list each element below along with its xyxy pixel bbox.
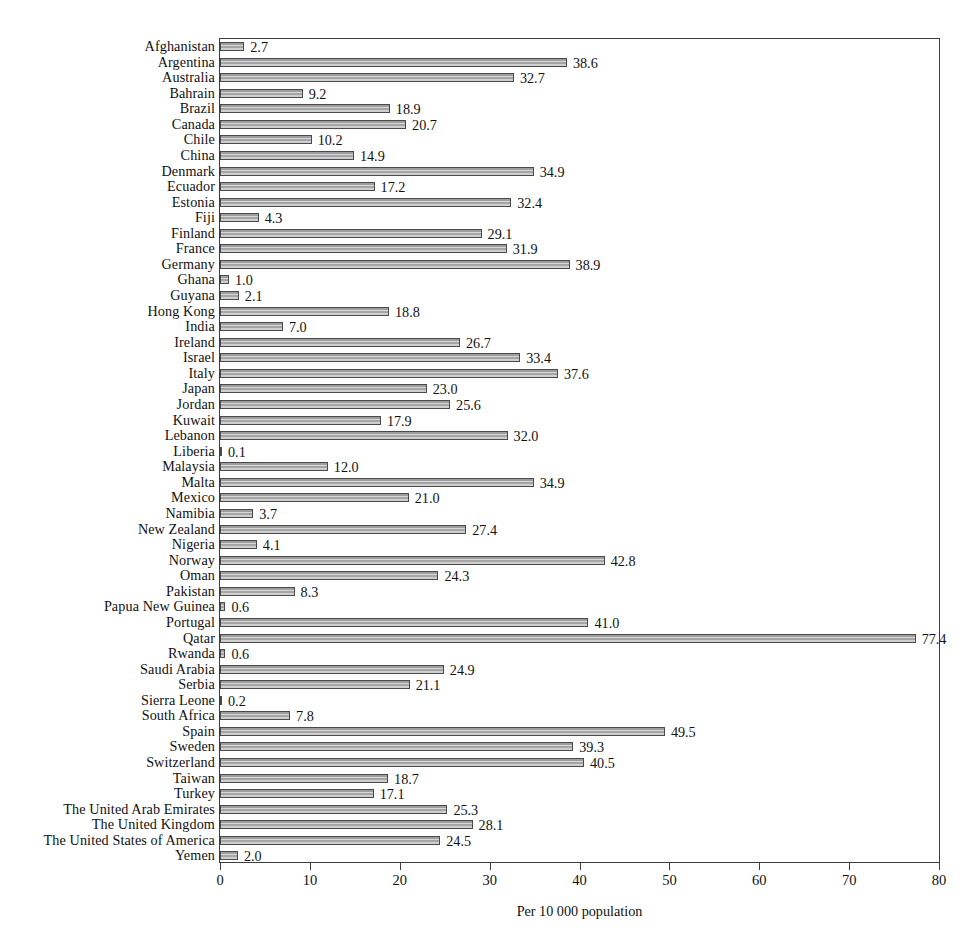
bar-row: Oman24.3: [0, 567, 975, 584]
bar-row: China14.9: [0, 147, 975, 164]
x-axis-tick-label: 0: [216, 871, 223, 889]
bar: [220, 400, 450, 409]
category-label: Spain: [182, 723, 215, 740]
bar-row: Mexico21.0: [0, 489, 975, 506]
bar: [220, 493, 409, 502]
bar: [220, 198, 511, 207]
bar: [220, 431, 508, 440]
bar: [220, 525, 466, 534]
bar: [220, 540, 257, 549]
category-label: Denmark: [162, 163, 216, 180]
bar-rows-container: Afghanistan2.7Argentina38.6Australia32.7…: [0, 38, 975, 863]
x-axis-tick-label: 40: [572, 871, 587, 889]
bar: [220, 836, 440, 845]
category-label: Hong Kong: [147, 303, 215, 320]
category-label: Mexico: [171, 489, 215, 506]
category-label: Liberia: [173, 443, 215, 460]
x-axis-tick-label: 30: [482, 871, 497, 889]
bar: [220, 478, 534, 487]
bar: [220, 338, 460, 347]
category-label: Papua New Guinea: [104, 598, 215, 615]
bar: [220, 634, 916, 643]
category-label: Israel: [183, 349, 215, 366]
bar: [220, 820, 473, 829]
bar: [220, 851, 238, 860]
x-axis-tick-label: 50: [662, 871, 677, 889]
category-label: Italy: [189, 365, 216, 382]
bar-row: The United States of America24.5: [0, 832, 975, 849]
category-label: Taiwan: [173, 770, 215, 787]
bar-row: Finland29.1: [0, 225, 975, 242]
x-axis: 01020304050607080: [219, 863, 940, 903]
bar-row: Saudi Arabia24.9: [0, 661, 975, 678]
category-label: Bahrain: [169, 85, 215, 102]
bar-row: The United Arab Emirates25.3: [0, 801, 975, 818]
bar-row: Qatar77.4: [0, 630, 975, 647]
bar-row: Ireland26.7: [0, 334, 975, 351]
category-label: Portugal: [166, 614, 215, 631]
bar: [220, 649, 225, 658]
category-label: South Africa: [142, 707, 215, 724]
x-axis-title: Per 10 000 population: [219, 903, 940, 920]
bar: [220, 587, 295, 596]
bar-row: South Africa7.8: [0, 707, 975, 724]
bar: [220, 244, 507, 253]
category-label: Ecuador: [167, 178, 215, 195]
category-label: Argentina: [158, 54, 215, 71]
category-label: Norway: [169, 552, 215, 569]
bar-row: Turkey17.1: [0, 785, 975, 802]
category-label: Brazil: [180, 100, 215, 117]
category-label: Malta: [181, 474, 215, 491]
bar: [220, 805, 447, 814]
bar-row: Argentina38.6: [0, 54, 975, 71]
category-label: Australia: [162, 69, 215, 86]
bar: [220, 291, 239, 300]
bar-row: Israel33.4: [0, 349, 975, 366]
bar: [220, 322, 283, 331]
bar-row: Rwanda0.6: [0, 645, 975, 662]
bar-row: New Zealand27.4: [0, 521, 975, 538]
bar: [220, 167, 534, 176]
bar-row: Ghana1.0: [0, 271, 975, 288]
bar-row: Malta34.9: [0, 474, 975, 491]
x-axis-tick-label: 10: [303, 871, 318, 889]
bar: [220, 151, 354, 160]
bar: [220, 416, 381, 425]
category-label: Afghanistan: [145, 38, 215, 55]
bar: [220, 42, 244, 51]
bar-row: Switzerland40.5: [0, 754, 975, 771]
bar-row: Sweden39.3: [0, 738, 975, 755]
bar-row: Portugal41.0: [0, 614, 975, 631]
category-label: Sweden: [169, 738, 215, 755]
category-label: Switzerland: [146, 754, 215, 771]
bar-row: Bahrain9.2: [0, 85, 975, 102]
category-label: The United States of America: [44, 832, 215, 849]
bar: [220, 774, 388, 783]
category-label: Rwanda: [168, 645, 215, 662]
category-label: Malaysia: [162, 458, 215, 475]
bar: [220, 680, 410, 689]
x-axis-tick: [400, 863, 401, 870]
bar-row: Taiwan18.7: [0, 770, 975, 787]
category-label: New Zealand: [138, 521, 215, 538]
bar: [220, 571, 438, 580]
bar: [220, 758, 584, 767]
x-axis-tick: [490, 863, 491, 870]
bar: [220, 665, 444, 674]
bar-row: Kuwait17.9: [0, 412, 975, 429]
category-label: Oman: [180, 567, 215, 584]
category-label: France: [176, 240, 215, 257]
bar: [220, 618, 588, 627]
x-axis-tick-label: 80: [932, 871, 947, 889]
x-axis-tick-label: 60: [752, 871, 767, 889]
bar: [220, 275, 229, 284]
bar: [220, 213, 259, 222]
bar: [220, 447, 222, 456]
bar-row: Namibia3.7: [0, 505, 975, 522]
bar-row: Serbia21.1: [0, 676, 975, 693]
bar-row: France31.9: [0, 240, 975, 257]
bar-row: Afghanistan2.7: [0, 38, 975, 55]
category-label: Chile: [184, 131, 215, 148]
bar-row: Malaysia12.0: [0, 458, 975, 475]
bar-row: Yemen2.0: [0, 847, 975, 864]
